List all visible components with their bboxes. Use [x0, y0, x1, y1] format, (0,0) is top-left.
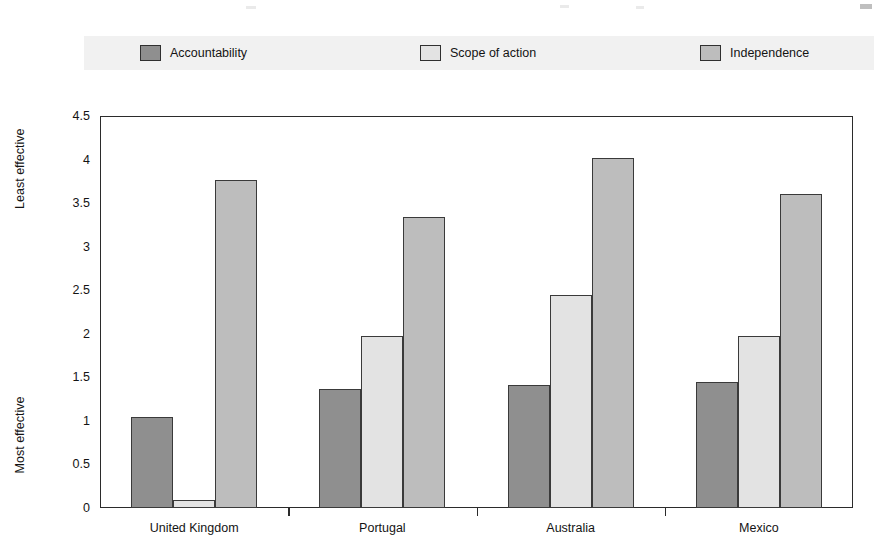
x-axis-tick-label: Mexico — [739, 522, 779, 535]
bar[interactable] — [550, 295, 592, 508]
y-axis-tick-label: 3.5 — [73, 197, 90, 210]
bar[interactable] — [696, 382, 738, 508]
y-axis-tick-label: 4 — [83, 153, 90, 166]
y-axis-caption-most-effective: Most effective — [14, 397, 27, 474]
y-axis-tick-label: 2.5 — [73, 284, 90, 297]
bar[interactable] — [738, 336, 780, 508]
scan-artifact — [860, 4, 872, 9]
legend-label: Independence — [730, 47, 809, 60]
x-axis-tick-mark — [288, 508, 290, 516]
bar[interactable] — [215, 180, 257, 508]
bar[interactable] — [508, 385, 550, 508]
y-axis-tick-label: 4.5 — [73, 110, 90, 123]
bar-group — [696, 116, 822, 508]
x-axis-tick-mark — [665, 508, 667, 516]
y-axis: 00.511.522.533.544.5 — [52, 108, 100, 516]
bar[interactable] — [592, 158, 634, 508]
x-axis-tick-label: Australia — [546, 522, 595, 535]
legend-label: Scope of action — [450, 47, 536, 60]
bars-layer — [100, 116, 853, 508]
bar-group — [131, 116, 257, 508]
legend-swatch-icon — [700, 45, 721, 61]
scan-artifact — [246, 6, 256, 9]
y-axis-tick-label: 0.5 — [73, 458, 90, 471]
y-axis-caption-least-effective: Least effective — [14, 129, 27, 209]
y-axis-tick-label: 1 — [83, 415, 90, 428]
bar[interactable] — [319, 389, 361, 508]
y-axis-tick-label: 2 — [83, 328, 90, 341]
bar[interactable] — [173, 500, 215, 508]
bar[interactable] — [403, 217, 445, 508]
x-axis-tick-label: Portugal — [359, 522, 406, 535]
y-axis-tick-label: 0 — [83, 502, 90, 515]
x-axis: United KingdomPortugalAustraliaMexico — [100, 508, 853, 552]
legend-item-independence: Independence — [700, 45, 809, 61]
bar[interactable] — [131, 417, 173, 508]
y-axis-tick-label: 3 — [83, 240, 90, 253]
scan-artifact — [560, 5, 569, 8]
chart-page: { "legend": { "items": [ { "label": "Acc… — [0, 0, 886, 560]
scan-artifact — [636, 6, 644, 9]
bar[interactable] — [361, 336, 403, 508]
y-axis-tick-label: 1.5 — [73, 371, 90, 384]
bar-group — [508, 116, 634, 508]
bar[interactable] — [780, 194, 822, 508]
legend-label: Accountability — [170, 47, 247, 60]
legend-swatch-icon — [420, 45, 441, 61]
legend-item-accountability: Accountability — [140, 45, 247, 61]
x-axis-tick-label: United Kingdom — [150, 522, 239, 535]
x-axis-tick-mark — [477, 508, 479, 516]
chart-legend: Accountability Scope of action Independe… — [84, 36, 874, 70]
legend-swatch-icon — [140, 45, 161, 61]
legend-item-scope-of-action: Scope of action — [420, 45, 536, 61]
bar-group — [319, 116, 445, 508]
